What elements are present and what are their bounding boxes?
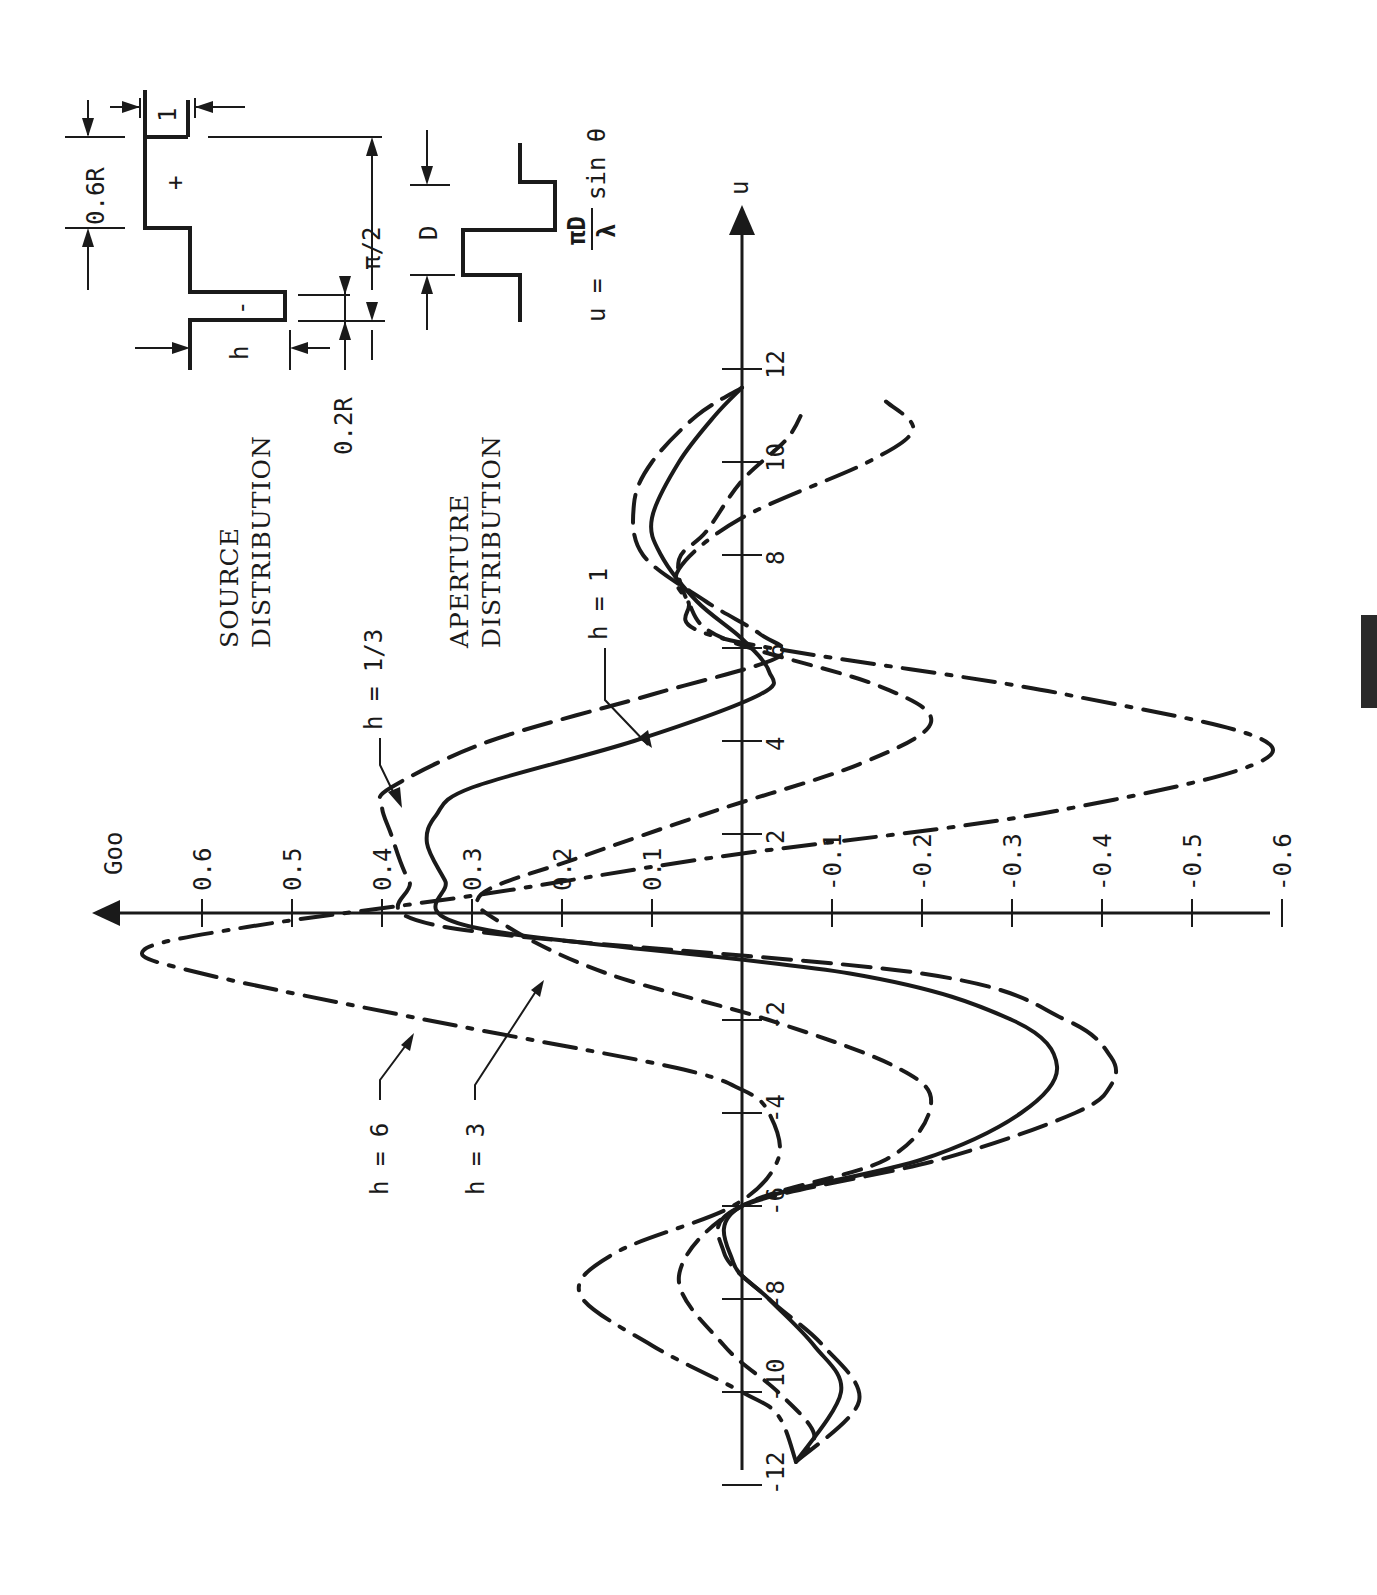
u-tick-label: 2 <box>762 830 790 844</box>
page-edge-tab <box>1361 615 1377 708</box>
svg-text:u =: u = <box>583 279 611 322</box>
label-h-1-3: h = 1/3 <box>360 629 388 730</box>
dim-label-D: D <box>415 226 443 240</box>
g-tick-label: -0.6 <box>1269 833 1297 891</box>
g-axis-label: Goo <box>100 832 128 875</box>
dim-label-width-1: 1 <box>154 108 182 122</box>
plus-sign: + <box>161 176 189 190</box>
chart-canvas: 0.60.50.40.30.20.1-0.1-0.2-0.3-0.4-0.5-0… <box>0 0 1377 1595</box>
g-tick-label: 0.1 <box>639 848 667 891</box>
u-tick-label: 12 <box>762 350 790 379</box>
source-distribution-diagram <box>65 90 385 370</box>
g-tick-label: -0.3 <box>999 833 1027 891</box>
g-tick-label: -0.5 <box>1179 833 1207 891</box>
source-diagram-arrows <box>82 101 378 354</box>
g-tick-label: 0.5 <box>279 848 307 891</box>
series-curve-h-6 <box>142 402 1273 1462</box>
u-axis-arrowhead-icon <box>729 205 755 235</box>
g-tick-label: -0.2 <box>909 833 937 891</box>
u-tick-label: -2 <box>762 1001 790 1030</box>
series-curve-h-3 <box>477 406 931 1462</box>
dim-label-0-2R: 0.2R <box>330 397 358 455</box>
g-tick-label: 0.4 <box>369 848 397 891</box>
g-axis-arrowhead-icon <box>92 900 120 926</box>
u-formula: u = πD λ sin θ <box>563 128 621 322</box>
svg-text:πD: πD <box>563 216 591 245</box>
minus-sign: - <box>228 301 256 315</box>
label-h-6: h = 6 <box>366 1123 394 1195</box>
u-tick-label: -4 <box>762 1094 790 1123</box>
aperture-title-line2: DISTRIBUTION <box>477 435 506 648</box>
u-tick-label: 4 <box>762 737 790 751</box>
g-tick-label: -0.4 <box>1089 833 1117 891</box>
u-tick-label: 8 <box>762 551 790 565</box>
label-h-1: h = 1 <box>585 568 613 640</box>
label-h-3: h = 3 <box>462 1123 490 1195</box>
curves <box>142 388 1273 1462</box>
dim-label-h: h <box>226 346 254 360</box>
g-tick-label: 0.3 <box>459 848 487 891</box>
source-title-line2: DISTRIBUTION <box>247 435 276 648</box>
u-axis-label: u <box>726 181 754 195</box>
svg-text:sin θ: sin θ <box>583 128 611 200</box>
callout-arrowheads <box>388 730 652 1051</box>
source-title-line1: SOURCE <box>215 527 244 648</box>
dim-label-0-6R: 0.6R <box>82 167 110 225</box>
g-tick-label: 0.6 <box>189 848 217 891</box>
u-tick-label: -12 <box>762 1452 790 1495</box>
aperture-title-line1: APERTURE <box>445 494 474 649</box>
dim-label-pi-over-2: π/2 <box>358 227 386 270</box>
svg-text:λ: λ <box>593 224 621 238</box>
